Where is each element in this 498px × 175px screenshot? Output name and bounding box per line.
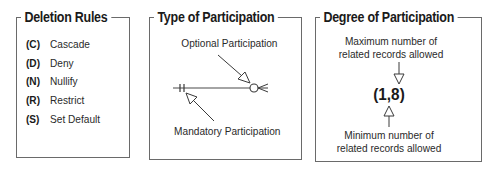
deletion-rules-title: Deletion Rules xyxy=(21,8,111,26)
type-of-participation-title: Type of Participation xyxy=(154,8,278,26)
max-label-line1: Maximum number of xyxy=(343,34,440,48)
rule-label: Nullify xyxy=(50,73,78,89)
degree-of-participation-title: Degree of Participation xyxy=(320,8,457,26)
mandatory-participation-label: Mandatory Participation xyxy=(174,124,264,138)
rule-code: (N) xyxy=(26,73,40,89)
rule-code: (R) xyxy=(26,92,40,108)
min-label-line2: related records allowed xyxy=(332,141,446,155)
rule-code: (S) xyxy=(26,111,40,127)
degree-value: (1,8) xyxy=(368,85,409,105)
deletion-rules-panel: Deletion Rules (C) Cascade (D) Deny (N) … xyxy=(16,17,130,158)
max-label-line2: related records allowed xyxy=(334,47,448,61)
min-label-line1: Minimum number of xyxy=(341,128,438,142)
optional-participation-label: Optional Participation xyxy=(181,36,258,50)
rule-label: Restrict xyxy=(50,92,84,108)
rule-label: Set Default xyxy=(50,111,100,127)
rule-code: (C) xyxy=(26,36,40,52)
rule-code: (D) xyxy=(26,55,40,71)
rule-label: Cascade xyxy=(50,36,90,52)
rule-label: Deny xyxy=(50,55,74,71)
